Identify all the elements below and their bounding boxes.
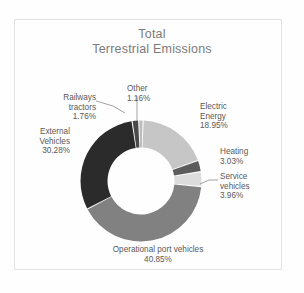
chart-figure: Total Terrestrial Emissions Other 1.16% … bbox=[0, 0, 304, 293]
slice-label-heating: Heating 3.03% bbox=[220, 147, 248, 166]
slice-label-electric-energy-name1: Electric bbox=[200, 102, 227, 111]
donut-slice-other bbox=[139, 120, 142, 147]
slice-label-service-vehicles-value: 3.96% bbox=[220, 191, 250, 201]
slice-label-heating-name: Heating bbox=[220, 147, 248, 156]
slice-label-operational-port-vehicles: Operational port vehicles 40.85% bbox=[84, 245, 232, 264]
slice-label-railways-tractors-name2: tractors bbox=[44, 103, 96, 113]
slice-label-railways-tractors: Railways tractors 1.76% bbox=[44, 93, 96, 122]
slice-label-railways-tractors-value: 1.76% bbox=[44, 112, 96, 122]
slice-label-railways-tractors-name1: Railways bbox=[63, 93, 96, 102]
slice-label-electric-energy-name2: Energy bbox=[200, 112, 228, 122]
leader-line-railways-tractors bbox=[96, 101, 125, 113]
slice-label-electric-energy: Electric Energy 18.95% bbox=[200, 102, 228, 131]
slice-label-service-vehicles-name1: Service bbox=[220, 172, 247, 181]
slice-label-external-vehicles-name2: Vehicles bbox=[14, 137, 70, 147]
slice-label-external-vehicles-name1: External bbox=[40, 127, 70, 136]
donut-slice-group bbox=[81, 120, 202, 241]
donut-slice-electric-energy bbox=[142, 121, 197, 170]
slice-label-other-name: Other bbox=[127, 84, 147, 93]
slice-label-service-vehicles: Service vehicles 3.96% bbox=[220, 172, 250, 201]
slice-label-external-vehicles: External Vehicles 30.28% bbox=[14, 127, 70, 156]
leader-line-service-vehicles bbox=[200, 180, 218, 184]
slice-label-other: Other 1.16% bbox=[127, 84, 150, 103]
slice-label-service-vehicles-name2: vehicles bbox=[220, 182, 250, 192]
donut-slice-external-vehicles bbox=[81, 121, 136, 208]
slice-label-electric-energy-value: 18.95% bbox=[200, 121, 228, 131]
slice-label-heating-value: 3.03% bbox=[220, 157, 248, 167]
slice-label-external-vehicles-value: 30.28% bbox=[14, 146, 70, 156]
slice-label-operational-port-vehicles-name: Operational port vehicles bbox=[113, 245, 204, 254]
slice-label-other-value: 1.16% bbox=[127, 94, 150, 104]
slice-label-operational-port-vehicles-value: 40.85% bbox=[84, 255, 232, 265]
